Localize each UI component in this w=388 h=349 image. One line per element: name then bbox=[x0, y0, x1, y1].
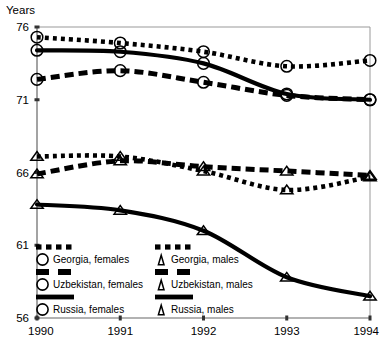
legend-line-sample bbox=[155, 269, 168, 275]
x-tick-mark bbox=[119, 316, 122, 321]
x-tick-label: 1993 bbox=[274, 325, 300, 337]
legend-label-russia-males: Russia, males bbox=[171, 304, 234, 315]
x-tick-label: 1994 bbox=[353, 325, 379, 337]
x-tick-label: 1992 bbox=[191, 325, 217, 337]
y-tick-label: 56 bbox=[16, 312, 29, 324]
legend-label-uzbekistan-males: Uzbekistan, males bbox=[171, 279, 253, 290]
series-line-uzbekistan-females bbox=[37, 71, 370, 100]
x-tick-label: 1991 bbox=[107, 325, 133, 337]
legend-label-georgia-females: Georgia, females bbox=[53, 254, 129, 265]
x-tick-mark bbox=[202, 316, 205, 321]
y-tick-label: 71 bbox=[16, 94, 29, 106]
x-tick-mark bbox=[369, 316, 372, 321]
legend-line-sample bbox=[46, 244, 52, 249]
x-tick-group: 19901991199219931994 bbox=[28, 316, 380, 338]
legend-line-sample bbox=[155, 244, 161, 249]
legend-swatch-dotted bbox=[155, 244, 191, 249]
legend-line-sample bbox=[36, 295, 74, 300]
legend-entry-georgia-females: Georgia, females bbox=[36, 244, 129, 265]
legend-label-uzbekistan-females: Uzbekistan, females bbox=[53, 279, 143, 290]
legend-swatch-dashed bbox=[155, 269, 190, 275]
y-axis-title: Years bbox=[6, 4, 35, 16]
legend-label-russia-females: Russia, females bbox=[53, 304, 124, 315]
legend-line-sample bbox=[56, 244, 62, 249]
legend-line-sample bbox=[155, 295, 193, 300]
legend-line-sample bbox=[36, 244, 42, 249]
y-tick-mark bbox=[35, 26, 40, 29]
legend-entry-russia-females: Russia, females bbox=[36, 295, 124, 316]
legend-circle-icon bbox=[37, 279, 48, 290]
y-tick-mark bbox=[35, 98, 40, 101]
legend-swatch-solid bbox=[155, 295, 193, 300]
legend-swatch-dashed bbox=[36, 269, 71, 275]
legend-entry-uzbekistan-females: Uzbekistan, females bbox=[36, 269, 143, 290]
legend-line-sample bbox=[58, 269, 71, 275]
legend-label-georgia-males: Georgia, males bbox=[171, 254, 239, 265]
legend-circle-icon bbox=[37, 254, 48, 265]
legend-line-sample bbox=[66, 244, 72, 249]
x-tick-mark bbox=[36, 316, 39, 321]
marker-triangle-georgia-males bbox=[31, 152, 43, 161]
legend-entry-russia-males: Russia, males bbox=[155, 295, 234, 315]
legend-line-sample bbox=[177, 269, 190, 275]
y-tick-label: 76 bbox=[16, 21, 29, 33]
legend-line-sample bbox=[36, 269, 49, 275]
legend-line-sample bbox=[165, 244, 171, 249]
life-expectancy-chart: Years 7671666156 19901991199219931994 Ge… bbox=[0, 0, 388, 349]
legend-swatch-solid bbox=[36, 295, 74, 300]
legend-swatch-dotted bbox=[36, 244, 72, 249]
legend-triangle-icon bbox=[158, 280, 164, 290]
legend-entry-georgia-males: Georgia, males bbox=[155, 244, 239, 265]
legend-triangle-icon bbox=[158, 255, 164, 265]
chart-canvas: Years 7671666156 19901991199219931994 Ge… bbox=[0, 0, 388, 349]
legend-entry-uzbekistan-males: Uzbekistan, males bbox=[155, 269, 253, 290]
legend-line-sample bbox=[185, 244, 191, 249]
legend-triangle-icon bbox=[158, 305, 164, 315]
legend-circle-icon bbox=[37, 304, 48, 315]
y-tick-label: 61 bbox=[16, 239, 29, 251]
legend-line-sample bbox=[175, 244, 181, 249]
x-tick-label: 1990 bbox=[28, 325, 54, 337]
x-tick-mark bbox=[285, 316, 288, 321]
y-tick-label: 66 bbox=[16, 167, 29, 179]
